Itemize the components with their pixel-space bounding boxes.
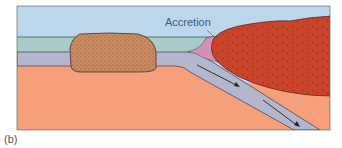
terrane-block (70, 33, 156, 72)
accretion-label: Accretion (165, 16, 211, 28)
panel-label: (b) (4, 133, 17, 145)
